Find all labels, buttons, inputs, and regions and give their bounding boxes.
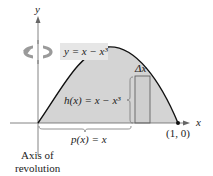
point-label: (1, 0) (166, 128, 190, 139)
y-axis-arrow-icon (36, 16, 41, 23)
point-1-0 (176, 121, 180, 125)
radius-brace (39, 126, 131, 132)
y-axis-label: y (35, 4, 40, 15)
axis-caption-line2: revolution (15, 163, 60, 174)
representative-rectangle (135, 76, 150, 123)
x-axis-arrow-icon (183, 121, 190, 126)
delta-x-label: Δx (135, 63, 146, 74)
x-axis-label: x (196, 117, 201, 128)
curve-equation-label: y = x − x³ (64, 46, 108, 57)
shaded-region (38, 47, 178, 123)
height-label: h(x) = x − x³ (64, 95, 121, 106)
rotation-arrow-icon (23, 40, 51, 64)
radius-label: p(x) = x (71, 134, 107, 145)
axis-caption-line1: Axis of (21, 150, 54, 161)
